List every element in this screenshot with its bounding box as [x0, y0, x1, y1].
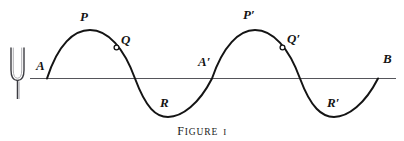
- label-b-text: B: [383, 51, 392, 66]
- label-p: P: [80, 10, 88, 23]
- caption-number: I: [223, 127, 227, 137]
- label-a: A: [36, 59, 45, 72]
- label-p-prime-group: P′: [243, 8, 255, 21]
- caption-first-letter: F: [177, 124, 184, 138]
- label-p-text: P: [80, 9, 88, 24]
- figure-container: A P Q A′ P′ Q′ R R′ B FIGUREI: [0, 0, 404, 141]
- label-a-prime-mark: ′: [207, 54, 211, 69]
- label-q-text: Q: [121, 32, 130, 47]
- label-q-prime-group: Q′: [287, 32, 300, 45]
- label-p-prime-mark: ′: [251, 7, 255, 22]
- label-a-prime-group: A′: [198, 55, 210, 68]
- label-r-prime-mark: ′: [336, 95, 340, 110]
- caption-rest: IGURE: [185, 127, 219, 137]
- figure-caption: FIGUREI: [0, 122, 404, 138]
- marker-q-prime-icon: [280, 45, 285, 50]
- label-q-prime-text: Q: [287, 31, 296, 46]
- marker-q-icon: [114, 45, 119, 50]
- label-p-prime-text: P: [243, 7, 251, 22]
- label-q-prime-mark: ′: [296, 31, 300, 46]
- tuning-fork-icon: [11, 48, 24, 99]
- label-q: Q: [121, 33, 130, 46]
- label-r: R: [160, 96, 169, 109]
- label-a-text: A: [36, 58, 45, 73]
- label-r-prime-group: R′: [327, 96, 339, 109]
- wave-diagram: [0, 0, 404, 141]
- label-r-prime-text: R: [327, 95, 336, 110]
- label-a-prime-text: A: [198, 54, 207, 69]
- label-r-text: R: [160, 95, 169, 110]
- label-b: B: [383, 52, 392, 65]
